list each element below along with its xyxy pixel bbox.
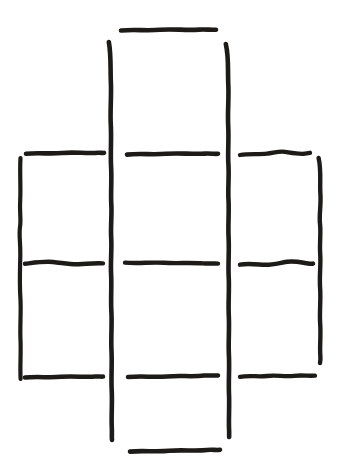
horizontal-line-middle-left xyxy=(25,262,103,264)
sketch-canvas xyxy=(0,0,342,476)
hand-drawn-grid-figure xyxy=(0,0,342,476)
vertical-line-left-inner xyxy=(109,42,112,440)
horizontal-line-upper-left xyxy=(26,153,104,154)
horizontal-line-bottom-left xyxy=(25,376,103,377)
horizontal-line-bottom-outer-center xyxy=(130,450,220,452)
vertical-line-left-outer xyxy=(20,158,21,379)
horizontal-line-middle-right xyxy=(240,261,313,264)
vertical-line-right-outer xyxy=(319,158,321,363)
horizontal-line-middle-center xyxy=(125,263,218,264)
canvas-background xyxy=(0,0,342,476)
horizontal-line-top-center xyxy=(121,29,216,30)
horizontal-line-bottom-right xyxy=(240,375,315,376)
horizontal-line-bottom-center xyxy=(128,375,218,377)
horizontal-line-upper-right xyxy=(240,152,310,155)
horizontal-line-upper-center xyxy=(127,153,218,154)
